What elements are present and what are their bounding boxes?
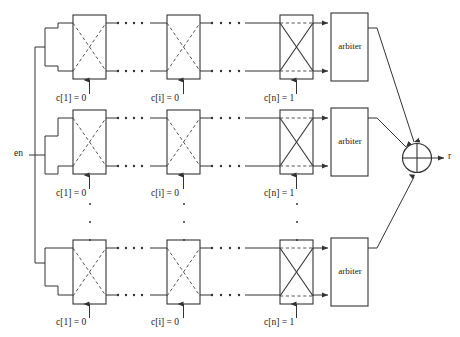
switch-box-r3c3[interactable] (280, 240, 313, 318)
enable-fanout-bus (29, 23, 62, 295)
control-label-r1c1: c[1] = 0 (56, 93, 86, 103)
xor-gate[interactable] (403, 144, 432, 173)
control-label-r1c2: c[i] = 0 (151, 93, 179, 103)
switch-box-r2c3[interactable] (280, 110, 313, 189)
stage-row-bottom (62, 238, 368, 318)
circuit-diagram-svg (0, 0, 460, 337)
arbiter-output-wires (368, 28, 414, 248)
enable-input-label: en (14, 148, 23, 158)
vertical-ellipsis-col3 (296, 203, 298, 241)
control-label-r1c3: c[n] = 1 (264, 93, 294, 103)
arbiter-label-3: arbiter (333, 266, 367, 276)
switch-box-r3c1[interactable] (73, 240, 106, 318)
vertical-ellipsis-col1 (89, 203, 91, 241)
stage-row-top (62, 13, 368, 94)
control-label-r2c1: c[1] = 0 (56, 188, 86, 198)
switch-box-r1c3[interactable] (280, 15, 313, 94)
switch-box-r1c1[interactable] (73, 15, 106, 94)
switch-box-r1c2[interactable] (167, 15, 200, 94)
vertical-ellipsis-col2 (183, 203, 185, 241)
control-label-r2c3: c[n] = 1 (264, 188, 294, 198)
stage-row-middle (62, 108, 368, 189)
control-label-r3c1: c[1] = 0 (56, 317, 86, 327)
control-label-r2c2: c[i] = 0 (151, 188, 179, 198)
switch-box-r3c2[interactable] (167, 240, 200, 318)
control-label-r3c2: c[i] = 0 (151, 317, 179, 327)
output-label-r: r (448, 151, 451, 161)
arbiter-label-2: arbiter (333, 136, 367, 146)
switch-box-r2c1[interactable] (73, 110, 106, 189)
switch-box-r2c2[interactable] (167, 110, 200, 189)
control-label-r3c3: c[n] = 1 (264, 317, 294, 327)
arbiter-label-1: arbiter (333, 41, 367, 51)
figure-canvas: en r arbiter arbiter arbiter c[1] = 0 c[… (0, 0, 460, 337)
